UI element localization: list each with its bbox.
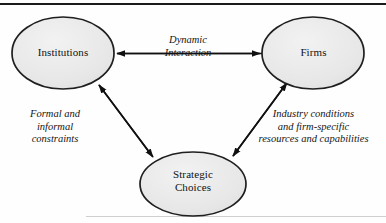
edge-label-dynamic-line2: Interaction xyxy=(128,47,248,60)
node-label-institutions: Institutions xyxy=(12,46,114,59)
edge-label-dynamic-interaction: Dynamic Interaction xyxy=(128,34,248,59)
edge-label-industry-line2: and firm-specific xyxy=(241,121,386,134)
edge-label-industry-conditions: Industry conditions and firm-specific re… xyxy=(241,108,386,146)
edge-label-industry-line3: resources and capabilities xyxy=(241,133,386,146)
node-label-strategic-line1: Strategic xyxy=(140,168,246,181)
node-label-firms-text: Firms xyxy=(300,46,326,58)
node-label-strategic-choices: Strategic Choices xyxy=(140,168,246,193)
node-label-firms: Firms xyxy=(262,46,365,59)
edge-label-formal-line1: Formal and xyxy=(10,108,100,121)
edge-label-formal-line2: informal xyxy=(10,121,100,134)
edge-label-formal-constraints: Formal and informal constraints xyxy=(10,108,100,146)
edge-label-formal-line3: constraints xyxy=(10,133,100,146)
edge-label-industry-line1: Industry conditions xyxy=(241,108,386,121)
node-label-strategic-line2: Choices xyxy=(140,181,246,194)
edge-label-dynamic-line1: Dynamic xyxy=(128,34,248,47)
diagram-figure: Institutions Firms Strategic Choices Dyn… xyxy=(0,0,386,223)
node-label-institutions-text: Institutions xyxy=(38,46,89,58)
edge-institutions-strategic-line xyxy=(99,85,153,157)
